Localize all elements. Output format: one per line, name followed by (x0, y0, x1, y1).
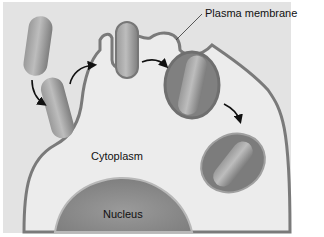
label-plasma-membrane: Plasma membrane (205, 7, 297, 19)
label-cytoplasm: Cytoplasm (91, 150, 143, 162)
phagocytosis-diagram (0, 0, 324, 237)
bacterium-engulfing (116, 22, 138, 78)
label-nucleus: Nucleus (103, 208, 143, 220)
